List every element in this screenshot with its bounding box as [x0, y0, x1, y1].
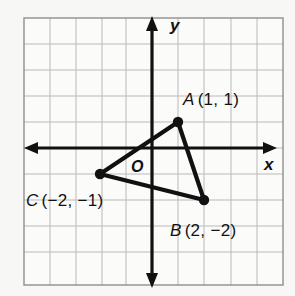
y-axis-label: y	[169, 16, 181, 35]
point-label-b: B(2, −2)	[170, 221, 236, 240]
vertex-dot-b	[199, 195, 209, 205]
point-label-b-coords: (2, −2)	[185, 221, 237, 240]
point-label-a-coords: (1, 1)	[198, 90, 239, 109]
point-label-b-name: B	[170, 221, 182, 240]
x-axis-label: x	[263, 155, 275, 174]
point-label-c-name: C	[26, 191, 39, 210]
point-label-a-name: A	[182, 90, 195, 109]
vertex-dot-a	[173, 117, 183, 127]
coordinate-plane-svg: y x O A(1, 1) B(2, −2) C(−2, −1)	[0, 0, 295, 296]
point-label-c-coords: (−2, −1)	[42, 191, 104, 210]
vertex-dot-c	[95, 169, 105, 179]
point-label-a: A(1, 1)	[182, 90, 239, 109]
point-label-c: C(−2, −1)	[26, 191, 104, 210]
origin-label: O	[131, 158, 144, 175]
coordinate-plane-figure: y x O A(1, 1) B(2, −2) C(−2, −1)	[0, 0, 295, 296]
